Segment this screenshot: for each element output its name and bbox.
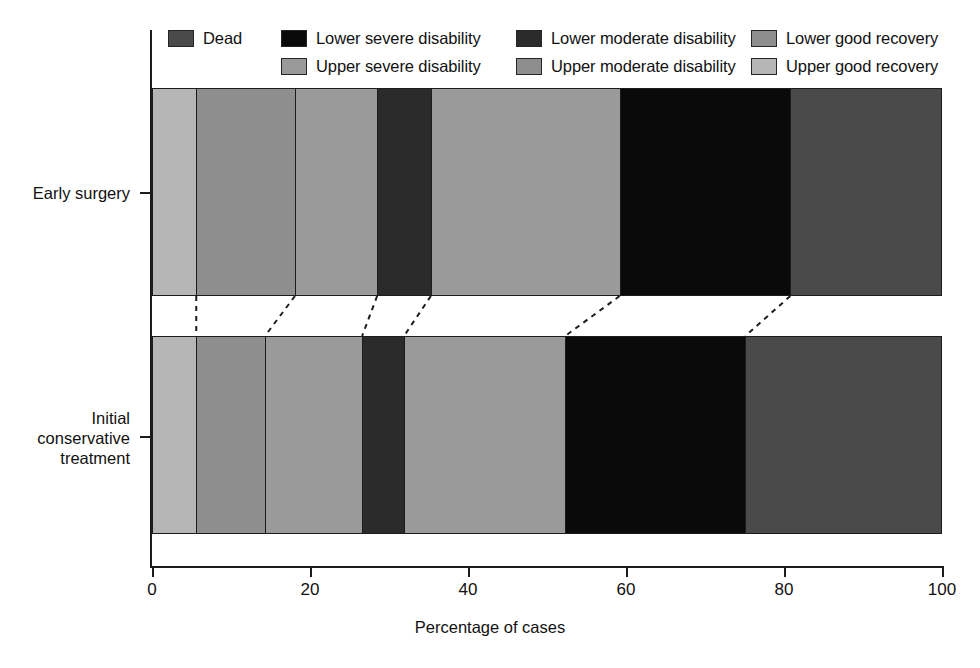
x-tick-label-40: 40 [459,580,478,600]
bar-segment-dead [791,89,942,295]
x-tick-20 [310,566,312,577]
y-tick-1 [140,436,152,438]
stacked-bar-chart: DeadLower severe disabilityLower moderat… [0,0,980,668]
bar-segment-upper-severe-disability [432,89,621,295]
bar-segment-lower-moderate-disability [363,337,405,533]
x-axis-title: Percentage of cases [0,618,980,637]
bar-segment-upper-moderate-disability [296,89,378,295]
legend-label-dead: Dead [203,30,242,47]
x-tick-80 [784,566,786,577]
x-tick-label-60: 60 [617,580,636,600]
legend-swatch-lower-moderate-disability [516,30,542,47]
legend-entry-lower-good-recovery[interactable]: Lower good recovery [751,26,938,50]
bar-segment-upper-good-recovery [153,337,197,533]
plot-area [152,88,942,548]
legend-swatch-dead [168,30,194,47]
legend-swatch-upper-good-recovery [751,58,777,75]
legend-swatch-upper-severe-disability [281,58,307,75]
y-axis-label-initial-conservative-treatment: Initial conservative treatment [0,408,130,468]
bar-segment-dead [746,337,942,533]
bar-segment-upper-severe-disability [405,337,566,533]
x-tick-40 [468,566,470,577]
bar-initial-conservative-treatment [152,336,942,534]
legend-swatch-lower-severe-disability [281,30,307,47]
legend-label-upper-severe-disability: Upper severe disability [316,58,481,75]
x-tick-label-0: 0 [147,580,156,600]
bar-segment-lower-moderate-disability [378,89,432,295]
bar-early-surgery [152,88,942,296]
x-tick-label-20: 20 [301,580,320,600]
bar-segment-lower-good-recovery [197,89,296,295]
chart-legend: DeadLower severe disabilityLower moderat… [168,26,958,84]
legend-label-lower-severe-disability: Lower severe disability [316,30,481,47]
legend-entry-upper-good-recovery[interactable]: Upper good recovery [751,54,938,78]
legend-swatch-lower-good-recovery [751,30,777,47]
y-tick-0 [140,192,152,194]
legend-entry-lower-moderate-disability[interactable]: Lower moderate disability [516,26,736,50]
legend-label-lower-moderate-disability: Lower moderate disability [551,30,736,47]
legend-label-lower-good-recovery: Lower good recovery [786,30,938,47]
legend-entry-dead[interactable]: Dead [168,26,242,50]
legend-entry-lower-severe-disability[interactable]: Lower severe disability [281,26,481,50]
bar-segment-upper-moderate-disability [266,337,363,533]
x-tick-label-100: 100 [928,580,956,600]
y-axis-label-text: Initial conservative treatment [37,409,130,467]
x-tick-label-80: 80 [775,580,794,600]
x-tick-0 [152,566,154,577]
legend-row-bottom: Upper severe disabilityUpper moderate di… [168,54,958,80]
y-axis-label-early-surgery: Early surgery [0,183,130,203]
bar-segment-upper-good-recovery [153,89,197,295]
legend-label-upper-moderate-disability: Upper moderate disability [551,58,736,75]
legend-entry-upper-moderate-disability[interactable]: Upper moderate disability [516,54,736,78]
legend-row-top: DeadLower severe disabilityLower moderat… [168,26,958,52]
bar-segment-lower-severe-disability [621,89,792,295]
x-tick-100 [942,566,944,577]
bar-segment-lower-severe-disability [566,337,746,533]
bar-segment-lower-good-recovery [197,337,266,533]
legend-label-upper-good-recovery: Upper good recovery [786,58,938,75]
legend-entry-upper-severe-disability[interactable]: Upper severe disability [281,54,481,78]
x-tick-60 [626,566,628,577]
legend-swatch-upper-moderate-disability [516,58,542,75]
x-axis-line: 020406080100 [150,566,942,568]
